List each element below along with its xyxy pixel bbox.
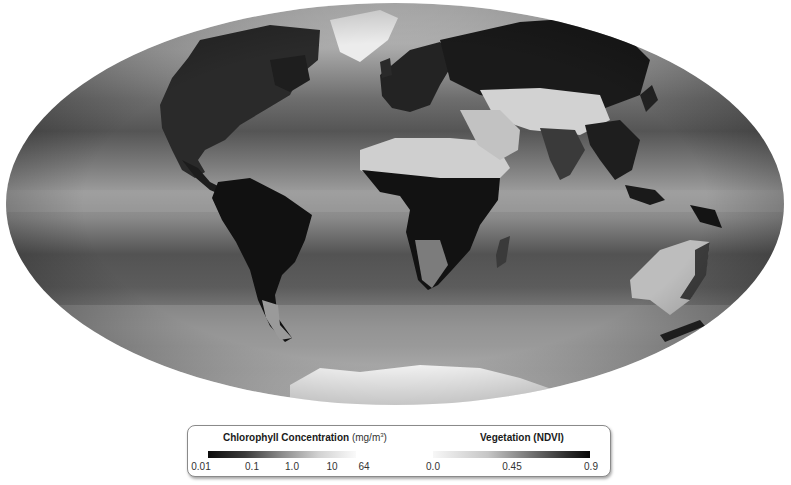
map-legend: Chlorophyll Concentration (mg/m3) 0.01 0…: [187, 425, 611, 477]
chlorophyll-unit: (mg/m3): [352, 432, 387, 443]
vegetation-tick: 0.45: [502, 461, 521, 472]
chlorophyll-colorbar: [208, 451, 356, 458]
chlorophyll-tick: 0.1: [245, 461, 259, 472]
vegetation-colorbar: [433, 451, 590, 458]
chlorophyll-tick: 1.0: [285, 461, 299, 472]
vegetation-tick: 0.0: [426, 461, 440, 472]
chlorophyll-tick: 64: [358, 461, 369, 472]
chlorophyll-tick: 10: [326, 461, 337, 472]
world-map: [0, 0, 791, 410]
chlorophyll-legend-title: Chlorophyll Concentration (mg/m3): [223, 432, 387, 443]
chlorophyll-title-text: Chlorophyll Concentration: [223, 432, 349, 443]
globe-rim-shade: [6, 3, 784, 405]
vegetation-title-text: Vegetation (NDVI): [480, 432, 564, 443]
vegetation-tick: 0.9: [584, 461, 598, 472]
chlorophyll-tick: 0.01: [191, 461, 210, 472]
vegetation-legend-title: Vegetation (NDVI): [480, 432, 564, 443]
